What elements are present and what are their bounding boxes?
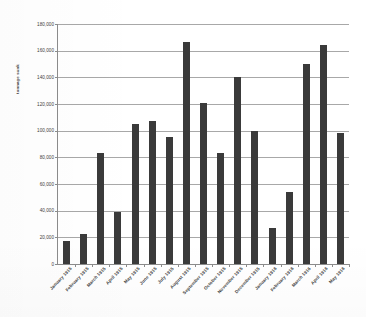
- bar-slot: [127, 24, 144, 264]
- bar-slot: [109, 24, 126, 264]
- y-axis-tick-label: 180,000: [20, 22, 54, 27]
- bar: [286, 192, 293, 264]
- plot-area: [57, 24, 349, 265]
- bar-slot: [178, 24, 195, 264]
- bar: [114, 212, 121, 264]
- x-axis-tick-labels: January 1915February 1915March 1915April…: [57, 266, 348, 316]
- bar-slot: [195, 24, 212, 264]
- y-axis-tick-label: 40,000: [20, 208, 54, 213]
- bar-slot: [281, 24, 298, 264]
- bar: [200, 103, 207, 264]
- bar: [149, 121, 156, 264]
- y-axis-tick-label: 160,000: [20, 48, 54, 53]
- bar: [320, 45, 327, 264]
- bar: [337, 133, 344, 264]
- bar-slot: [298, 24, 315, 264]
- x-axis-tick-label: May 1916: [311, 266, 347, 304]
- bar-slot: [264, 24, 281, 264]
- bar: [132, 124, 139, 264]
- bar: [234, 77, 241, 264]
- bar-slot: [144, 24, 161, 264]
- bar-slot: [246, 24, 263, 264]
- bar: [183, 42, 190, 264]
- bar: [217, 153, 224, 264]
- y-axis-tick-label: 140,000: [20, 75, 54, 80]
- bar-slot: [315, 24, 332, 264]
- x-axis-tick-mark: [349, 264, 350, 267]
- bar: [269, 228, 276, 264]
- bar-chart: tonnage sunk 180,000160,000140,000120,00…: [0, 0, 366, 317]
- bar-slot: [75, 24, 92, 264]
- y-axis-tick-label: 80,000: [20, 155, 54, 160]
- bar-slot: [212, 24, 229, 264]
- y-axis-tick-label: 20,000: [20, 235, 54, 240]
- bar: [251, 131, 258, 264]
- bar-slot: [58, 24, 75, 264]
- y-axis-tick-label: 100,000: [20, 128, 54, 133]
- bar: [80, 234, 87, 264]
- bar-slot: [332, 24, 349, 264]
- y-axis-tick-label: 120,000: [20, 102, 54, 107]
- bar: [63, 241, 70, 264]
- bar: [166, 137, 173, 264]
- bar-slot: [229, 24, 246, 264]
- bar-series: [58, 24, 349, 264]
- bar-slot: [161, 24, 178, 264]
- bar-slot: [92, 24, 109, 264]
- bar: [97, 153, 104, 264]
- y-axis-tick-labels: 180,000160,000140,000120,000100,00080,00…: [20, 18, 54, 270]
- y-axis-tick-label: 0: [20, 262, 54, 267]
- y-axis-tick-mark: [55, 264, 58, 265]
- y-axis-tick-label: 60,000: [20, 182, 54, 187]
- bar: [303, 64, 310, 264]
